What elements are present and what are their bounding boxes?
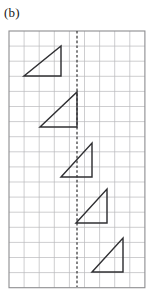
triangle-5: [92, 238, 123, 272]
triangle-4: [76, 189, 107, 223]
triangle-group: [24, 46, 123, 272]
figure-panel: (b): [0, 0, 156, 301]
figure-canvas: [0, 0, 156, 301]
